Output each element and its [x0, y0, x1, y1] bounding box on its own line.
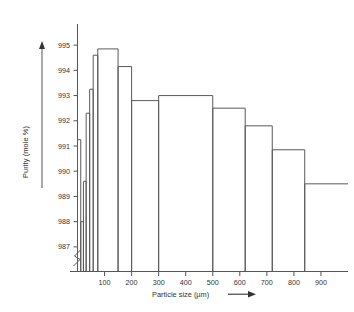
histogram-bin — [245, 126, 272, 272]
x-axis-title-group: Particle size (µm) — [152, 290, 256, 299]
y-tick-label: 993 — [58, 91, 70, 100]
y-axis-title: Purity (mole %) — [21, 126, 30, 178]
histogram-bin — [305, 184, 348, 272]
histogram-bin — [159, 96, 213, 272]
chart-svg: 987988989990991992993994995 100200300400… — [0, 0, 354, 312]
y-axis-title-rule — [39, 41, 45, 188]
y-tick-label: 991 — [58, 142, 70, 151]
histogram-bin — [213, 108, 245, 271]
x-tick-label: 900 — [315, 278, 327, 287]
y-tick-label: 990 — [58, 167, 70, 176]
x-tick-label: 600 — [234, 278, 246, 287]
x-tick-label: 800 — [288, 278, 300, 287]
y-tick-label: 987 — [58, 242, 70, 251]
histogram-bin — [98, 49, 118, 272]
x-tick-label: 300 — [153, 278, 165, 287]
x-tick-label: 500 — [207, 278, 219, 287]
y-tick-label: 992 — [58, 116, 70, 125]
histogram-bin — [272, 150, 304, 272]
histogram-bars — [78, 49, 349, 272]
y-axis-title-wrap: Purity (mole %) — [14, 0, 36, 312]
y-tick-label: 994 — [58, 66, 70, 75]
histogram-bin — [132, 101, 159, 272]
histogram-bin — [118, 67, 132, 272]
y-tick-label: 995 — [58, 41, 70, 50]
chart-figure: Purity (mole %) 987988989990991992993994… — [0, 0, 354, 312]
histogram-bin — [93, 55, 98, 271]
x-tick-label: 200 — [126, 278, 138, 287]
histogram-bin — [90, 89, 94, 271]
histogram-bin — [86, 113, 90, 271]
x-tick-label: 400 — [180, 278, 192, 287]
x-axis-title: Particle size (µm) — [152, 290, 209, 299]
x-axis-ticks: 100200300400500600700800900 — [99, 272, 327, 288]
plot-axes — [70, 24, 348, 272]
y-tick-label: 989 — [58, 192, 70, 201]
x-tick-label: 100 — [99, 278, 111, 287]
y-tick-label: 988 — [58, 217, 70, 226]
y-axis-ticks: 987988989990991992993994995 — [58, 41, 78, 252]
x-tick-label: 700 — [261, 278, 273, 287]
